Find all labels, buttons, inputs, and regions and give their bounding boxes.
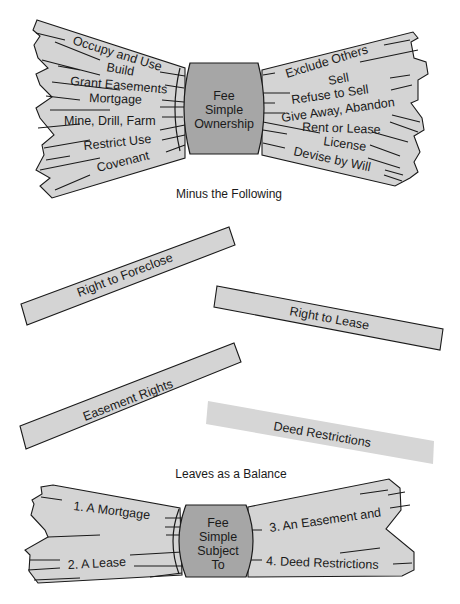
bottom-center-line-2: Simple bbox=[199, 530, 237, 544]
svg-text:Right to Foreclose: Right to Foreclose bbox=[75, 250, 175, 299]
top-center-line-3: Ownership bbox=[194, 117, 254, 131]
right-rent-or-lease: Rent or Lease bbox=[302, 120, 381, 137]
loose-stick-right-to-foreclose: Right to Foreclose bbox=[21, 227, 235, 325]
top-center-band: Fee Simple Ownership bbox=[175, 63, 264, 154]
top-bundle: Fee Simple Ownership Occupy and Use Buil… bbox=[33, 20, 428, 198]
top-center-line-1: Fee bbox=[213, 89, 235, 103]
loose-stick-right-to-lease: Right to Lease bbox=[214, 286, 443, 350]
top-center-line-2: Simple bbox=[205, 103, 243, 117]
bottom-center-line-1: Fee bbox=[207, 516, 229, 530]
bottom-center-band: Fee Simple Subject To bbox=[173, 505, 253, 577]
bottom-center-line-3: Subject bbox=[197, 544, 239, 558]
bottom-bundle: Fee Simple Subject To 1. A Mortgage 2. A… bbox=[25, 479, 414, 583]
right-mine-drill-farm: Mine, Drill, Farm bbox=[64, 114, 156, 128]
right-mortgage: Mortgage bbox=[89, 91, 142, 107]
bottom-center-line-4: To bbox=[211, 558, 224, 572]
loose-stick-easement-rights: Easement Rights bbox=[20, 343, 241, 449]
caption-minus-the-following: Minus the Following bbox=[176, 187, 282, 201]
caption-leaves-as-a-balance: Leaves as a Balance bbox=[175, 467, 287, 481]
loose-stick-deed-restrictions: Deed Restrictions bbox=[206, 401, 434, 464]
bundle-of-rights-diagram: Fee Simple Ownership Occupy and Use Buil… bbox=[0, 0, 460, 604]
